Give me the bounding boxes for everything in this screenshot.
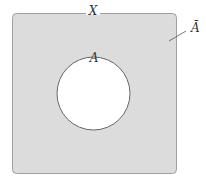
set-a-label: A xyxy=(89,51,99,65)
complement-label: Ā xyxy=(190,20,200,35)
set-a-circle xyxy=(57,57,130,130)
universe-label: X xyxy=(88,4,98,18)
venn-diagram: X A Ā xyxy=(0,0,207,180)
